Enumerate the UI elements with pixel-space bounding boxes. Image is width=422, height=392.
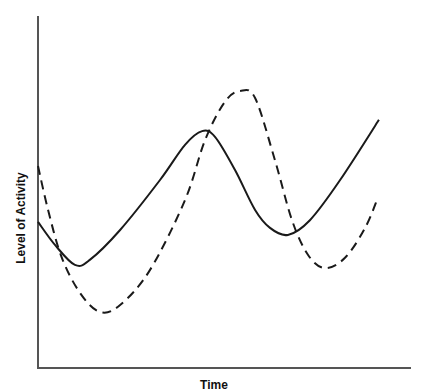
solid-curve xyxy=(38,120,379,266)
dashed-curve xyxy=(38,90,378,313)
x-axis-label: Time xyxy=(200,378,228,392)
y-axis-label: Level of Activity xyxy=(14,172,28,264)
